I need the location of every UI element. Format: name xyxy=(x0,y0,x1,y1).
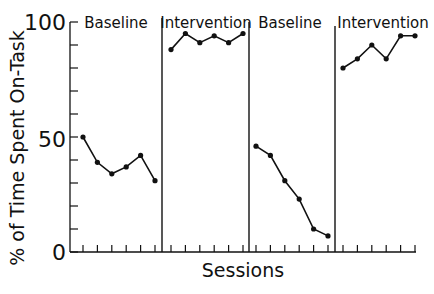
data-point xyxy=(282,178,287,183)
y-tick-label-0: 0 xyxy=(52,240,66,265)
line-chart: 100 50 0 % of Time Spent On-Task Session… xyxy=(0,0,434,294)
data-point xyxy=(124,164,129,169)
y-axis-label: % of Time Spent On-Task xyxy=(6,30,28,265)
phase-label-intervention-1: Intervention xyxy=(160,14,252,32)
y-tick-label-100: 100 xyxy=(24,10,66,35)
phase-line-1 xyxy=(83,137,155,181)
data-point xyxy=(412,33,417,38)
data-point xyxy=(311,226,316,231)
data-point xyxy=(398,33,403,38)
data-point xyxy=(138,153,143,158)
data-point xyxy=(183,31,188,36)
data-point xyxy=(226,40,231,45)
data-point xyxy=(168,47,173,52)
phase-line-3 xyxy=(256,146,328,236)
data-point xyxy=(152,178,157,183)
phase-label-baseline-2: Baseline xyxy=(258,14,322,32)
data-point xyxy=(253,144,258,149)
data-point xyxy=(268,153,273,158)
data-point xyxy=(95,160,100,165)
data-point xyxy=(325,233,330,238)
data-point xyxy=(197,40,202,45)
y-ticks xyxy=(70,22,78,252)
data-point xyxy=(80,134,85,139)
data-point xyxy=(340,65,345,70)
data-point xyxy=(297,197,302,202)
data-point xyxy=(109,171,114,176)
data-point xyxy=(369,42,374,47)
y-tick-label-50: 50 xyxy=(38,127,66,152)
data-point xyxy=(212,33,217,38)
data-point xyxy=(355,56,360,61)
data-point xyxy=(384,56,389,61)
phase-line-2 xyxy=(171,34,243,50)
phase-line-4 xyxy=(343,36,415,68)
phase-label-intervention-2: Intervention xyxy=(337,14,429,32)
x-axis-label: Sessions xyxy=(202,259,284,281)
phase-label-baseline-1: Baseline xyxy=(84,14,148,32)
data-point xyxy=(240,31,245,36)
